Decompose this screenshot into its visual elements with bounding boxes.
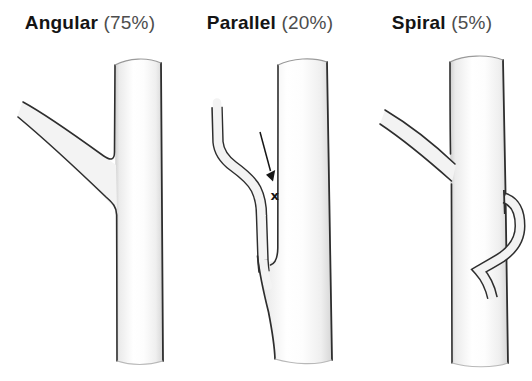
label-parallel: Parallel (20%) bbox=[180, 10, 360, 36]
spiral-percent: (5%) bbox=[451, 12, 492, 33]
trunk-edge-over-wrap bbox=[504, 190, 505, 214]
angular-vessel-illustration bbox=[0, 50, 180, 381]
figure-vessel-branching-types: Angular (75%) Parallel (20%) Spiral (5%) bbox=[0, 0, 532, 381]
spiral-name: Spiral bbox=[392, 12, 446, 33]
label-angular: Angular (75%) bbox=[0, 10, 180, 36]
parallel-vessel-illustration: x bbox=[180, 50, 360, 381]
junction-arrow-icon bbox=[260, 132, 275, 182]
vessel-branch bbox=[217, 103, 268, 287]
vessel-trunk bbox=[115, 60, 163, 365]
parallel-name: Parallel bbox=[207, 12, 276, 33]
junction-x-marker: x bbox=[271, 188, 280, 203]
parallel-percent: (20%) bbox=[282, 12, 334, 33]
angular-percent: (75%) bbox=[103, 12, 155, 33]
spiral-vessel-illustration bbox=[352, 50, 532, 381]
label-spiral: Spiral (5%) bbox=[352, 10, 532, 36]
vessel-trunk bbox=[450, 57, 508, 367]
angular-name: Angular bbox=[25, 12, 98, 33]
vessel-branch bbox=[380, 110, 456, 182]
